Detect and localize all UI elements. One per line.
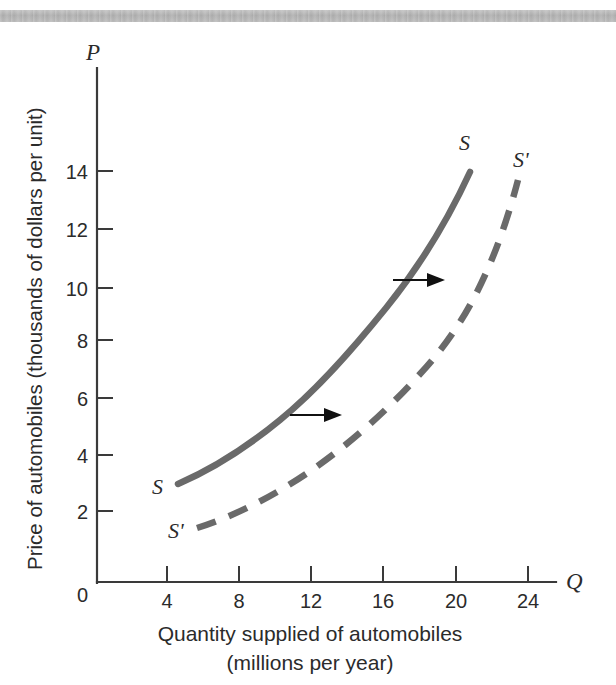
curve-label-s-prime-upper: S' xyxy=(513,147,529,172)
y-tick-label-14: 14 xyxy=(66,161,88,183)
x-axis-subtitle: (millions per year) xyxy=(227,651,394,674)
y-tick-label-4: 4 xyxy=(77,445,88,467)
curve-label-s-lower: S xyxy=(152,474,163,499)
x-tick-label-12: 12 xyxy=(300,590,322,612)
y-tick-label-2: 2 xyxy=(77,501,88,523)
curve-label-s-upper: S xyxy=(459,130,470,155)
x-axis-ticks xyxy=(167,566,528,582)
x-tick-label-20: 20 xyxy=(445,590,467,612)
supply-curve-s-prime xyxy=(197,180,518,528)
x-tick-label-4: 4 xyxy=(161,590,172,612)
y-axis-title: Price of automobiles (thousands of dolla… xyxy=(23,107,46,570)
shift-arrow-lower xyxy=(290,408,342,422)
x-axis-title: Quantity supplied of automobiles xyxy=(158,622,463,645)
y-tick-label-10: 10 xyxy=(66,278,88,300)
x-tick-label-24: 24 xyxy=(517,590,539,612)
y-axis-ticks xyxy=(97,171,113,511)
x-tick-label-8: 8 xyxy=(233,590,244,612)
y-axis-symbol-p: P xyxy=(85,40,100,65)
chart-canvas: 14 12 10 8 6 4 2 0 4 8 12 16 20 24 P Q xyxy=(0,0,616,685)
supply-curve-figure: 14 12 10 8 6 4 2 0 4 8 12 16 20 24 P Q xyxy=(0,0,616,685)
origin-label-zero: 0 xyxy=(77,584,88,606)
supply-curve-s xyxy=(178,172,470,484)
y-tick-label-6: 6 xyxy=(77,388,88,410)
x-axis-symbol-q: Q xyxy=(566,569,583,594)
y-tick-label-8: 8 xyxy=(77,330,88,352)
x-tick-label-16: 16 xyxy=(372,590,394,612)
curve-label-s-prime-lower: S' xyxy=(168,518,184,543)
y-tick-label-12: 12 xyxy=(66,219,88,241)
